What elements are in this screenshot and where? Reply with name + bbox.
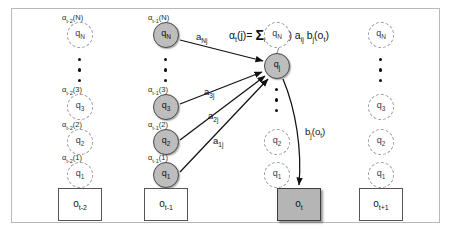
edge-label-a-3j: a3j <box>204 87 214 99</box>
vertical-ellipsis-t2 <box>78 58 81 82</box>
state-node-tp1-q3[interactable]: q3 <box>368 94 394 120</box>
state-node-t1-q1[interactable]: q1 <box>153 162 179 188</box>
state-node-t1-qN[interactable]: qN <box>153 22 179 48</box>
state-node-t-qj[interactable]: qj <box>264 53 290 79</box>
state-node-t1-q2[interactable]: q2 <box>153 129 179 155</box>
state-node-t-qN[interactable]: qN <box>264 22 290 48</box>
observation-box-t2[interactable]: ot-2 <box>58 188 102 221</box>
edge-qN-to-qj <box>180 40 263 61</box>
vertical-ellipsis-t1 <box>164 58 167 82</box>
state-node-t1-q3[interactable]: q3 <box>153 94 179 120</box>
state-node-tp1-qN[interactable]: qN <box>368 22 394 48</box>
state-node-t2-q2[interactable]: q2 <box>67 129 93 155</box>
edge-label-a-1j: a1j <box>213 136 223 148</box>
edge-q1-to-qj <box>180 79 268 172</box>
state-node-tp1-q2[interactable]: q2 <box>368 129 394 155</box>
state-node-t2-q3[interactable]: q3 <box>67 94 93 120</box>
observation-box-t1[interactable]: ot-1 <box>144 188 188 221</box>
state-node-t-q1[interactable]: q1 <box>264 162 290 188</box>
edge-label-a-2j: a2j <box>208 111 218 123</box>
state-node-t-q2[interactable]: q2 <box>264 129 290 155</box>
observation-box-tp1[interactable]: ot+1 <box>359 188 403 221</box>
state-node-t2-qN[interactable]: qN <box>67 22 93 48</box>
state-node-tp1-q1[interactable]: q1 <box>368 162 394 188</box>
edge-label-b-j-ot: bj(ot) <box>305 127 325 139</box>
figure-canvas: αt(j)= Σi αt-1(i) aij bj(ot) αt-2(N) qN … <box>0 0 454 237</box>
edge-q2-to-qj <box>180 76 265 140</box>
state-node-t2-q1[interactable]: q1 <box>67 162 93 188</box>
vertical-ellipsis-tp1 <box>379 58 382 82</box>
edge-label-a-Nj: aNj <box>196 32 207 44</box>
observation-box-t[interactable]: ot <box>277 188 321 221</box>
vertical-ellipsis-t <box>275 88 278 112</box>
